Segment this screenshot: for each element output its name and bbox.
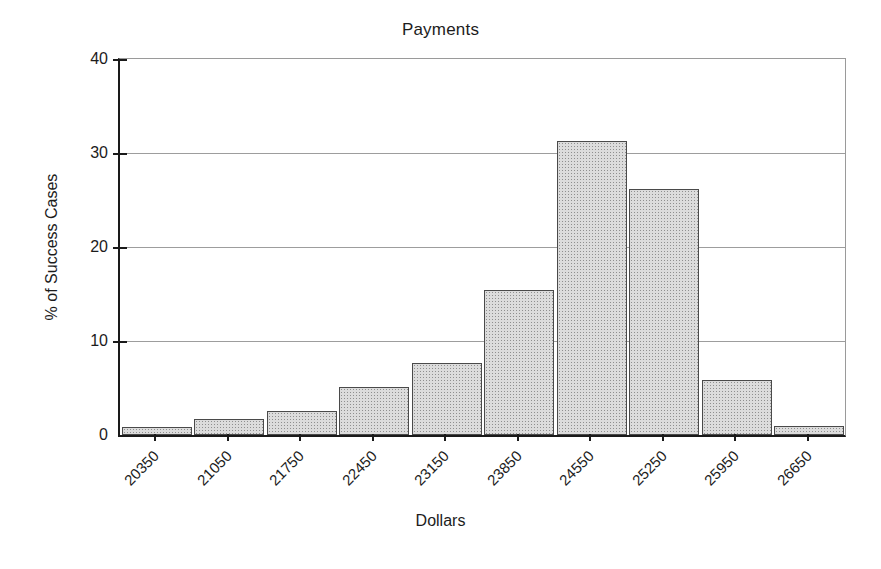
chart-title: Payments <box>0 20 881 40</box>
y-tick-label: 20 <box>90 238 108 256</box>
x-tick-label: 22450 <box>338 447 380 489</box>
x-tick-label: 20350 <box>121 447 163 489</box>
bar <box>267 411 337 435</box>
x-tick-label: 25950 <box>701 447 743 489</box>
x-tick-label: 24550 <box>556 447 598 489</box>
bar <box>122 427 192 435</box>
bar <box>339 387 409 435</box>
x-tick-label: 21050 <box>193 447 235 489</box>
x-tick-mark <box>589 434 591 441</box>
x-tick-mark <box>807 434 809 441</box>
y-tick-label: 0 <box>99 426 108 444</box>
x-tick-mark <box>734 434 736 441</box>
x-tick-mark <box>662 434 664 441</box>
bar <box>774 426 844 435</box>
bar <box>412 363 482 435</box>
x-tick-label: 25250 <box>628 447 670 489</box>
bars-group <box>120 59 845 435</box>
x-tick-mark <box>227 434 229 441</box>
x-tick-mark <box>299 434 301 441</box>
histogram-chart: Payments % of Success Cases 010203040 20… <box>0 0 881 569</box>
bar <box>194 419 264 435</box>
plot-area: 010203040 <box>118 58 846 437</box>
x-tick-label: 23850 <box>483 447 525 489</box>
x-tick-mark <box>517 434 519 441</box>
y-tick-label: 40 <box>90 50 108 68</box>
x-tick-label: 26650 <box>773 447 815 489</box>
bar <box>629 189 699 435</box>
y-axis-title: % of Success Cases <box>43 117 61 377</box>
y-tick-label: 30 <box>90 144 108 162</box>
x-tick-label: 23150 <box>411 447 453 489</box>
x-tick-mark <box>154 434 156 441</box>
bar <box>702 380 772 435</box>
x-tick-mark <box>444 434 446 441</box>
x-tick-label: 21750 <box>266 447 308 489</box>
x-axis-title: Dollars <box>0 512 881 530</box>
bar <box>557 141 627 435</box>
y-tick-label: 10 <box>90 332 108 350</box>
x-tick-mark <box>372 434 374 441</box>
bar <box>484 290 554 435</box>
